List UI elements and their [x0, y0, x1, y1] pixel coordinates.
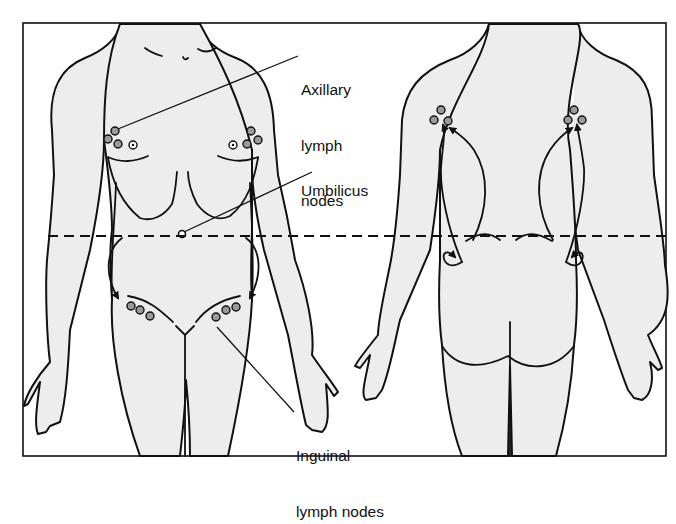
inguinal-label-line2: lymph nodes: [296, 503, 384, 522]
lymph-node-icon: [437, 106, 445, 114]
lymph-node-icon: [104, 135, 112, 143]
lymph-node-icon: [111, 127, 119, 135]
lymph-node-icon: [243, 140, 251, 148]
lymph-node-icon: [232, 303, 240, 311]
lymph-node-icon: [136, 306, 144, 314]
lymph-node-icon: [212, 313, 220, 321]
lymph-node-icon: [222, 306, 230, 314]
axillary-label-line1: Axillary: [301, 81, 351, 100]
posterior-body: [355, 24, 668, 456]
lymph-node-icon: [146, 312, 154, 320]
lymph-node-icon: [570, 106, 578, 114]
lymph-node-icon: [247, 127, 255, 135]
inguinal-label-line1: Inguinal: [296, 447, 384, 466]
lymph-node-icon: [254, 136, 262, 144]
anterior-body: [24, 24, 338, 456]
lymph-node-icon: [114, 140, 122, 148]
lymph-node-icon: [127, 302, 135, 310]
lymph-node-icon: [578, 116, 586, 124]
umbilicus-label: Umbilicus: [301, 145, 368, 238]
inguinal-label: Inguinal lymph nodes: [296, 410, 384, 524]
lymph-node-icon: [444, 117, 452, 125]
lymph-node-icon: [430, 116, 438, 124]
lymph-node-icon: [564, 116, 572, 124]
umbilicus-label-text: Umbilicus: [301, 182, 368, 201]
